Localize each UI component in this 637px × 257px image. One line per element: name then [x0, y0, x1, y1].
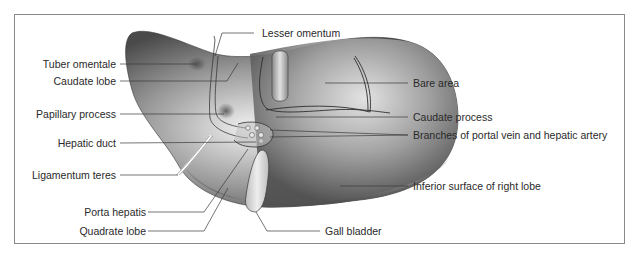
label-quadrate-lobe: Quadrate lobe: [79, 225, 146, 237]
ivc-groove: [272, 51, 288, 101]
label-gall-bladder: Gall bladder: [325, 225, 382, 237]
label-hepatic-duct: Hepatic duct: [58, 137, 116, 149]
label-caudate-process: Caudate process: [413, 111, 492, 123]
label-caudate-lobe: Caudate lobe: [54, 75, 116, 87]
label-ligamentum-teres: Ligamentum teres: [32, 169, 116, 181]
label-tuber-omentale: Tuber omentale: [43, 58, 116, 70]
label-bare-area: Bare area: [413, 77, 459, 89]
label-branches-portal-vein-hepatic-artery: Branches of portal vein and hepatic arte…: [413, 129, 607, 141]
label-papillary-process: Papillary process: [36, 108, 116, 120]
papillary-process-spot: [217, 103, 235, 119]
liver-body: [126, 31, 458, 207]
label-inferior-surface-right-lobe: Inferior surface of right lobe: [413, 180, 541, 192]
label-lesser-omentum: Lesser omentum: [262, 27, 340, 39]
label-porta-hepatis: Porta hepatis: [84, 206, 146, 218]
